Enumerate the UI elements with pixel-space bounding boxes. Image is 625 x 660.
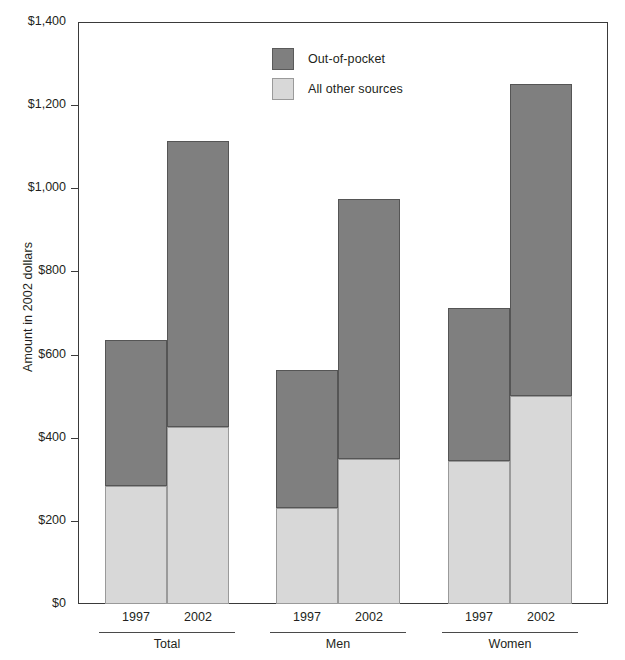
bar-total-2002	[167, 141, 229, 604]
legend-swatch-oop	[272, 48, 294, 70]
segment-all-other-sources	[510, 396, 572, 604]
x-axis-year-label: 1997	[276, 610, 338, 624]
y-axis-title: Amount in 2002 dollars	[21, 197, 35, 417]
bar-women-2002	[510, 84, 572, 604]
y-axis-tick-label: $600	[0, 347, 66, 361]
segment-out-of-pocket	[338, 199, 400, 459]
bar-women-1997	[448, 308, 510, 604]
segment-all-other-sources	[167, 427, 229, 604]
x-axis-year-label: 1997	[105, 610, 167, 624]
y-axis-tick-label: $200	[0, 513, 66, 527]
segment-all-other-sources	[448, 461, 510, 604]
y-axis-tick-label: $0	[0, 596, 66, 610]
x-axis-group-rule	[442, 632, 578, 633]
segment-all-other-sources	[105, 486, 167, 604]
bar-men-1997	[276, 370, 338, 604]
y-axis-tick-label: $1,400	[0, 14, 66, 28]
bar-total-1997	[105, 340, 167, 604]
legend-label: Out-of-pocket	[308, 52, 385, 66]
x-axis-group-label: Men	[270, 637, 406, 651]
legend-item: All other sources	[272, 74, 403, 104]
stacked-bar-chart: Amount in 2002 dollars $1,400$1,200$1,00…	[0, 0, 625, 660]
x-axis-group-label: Total	[99, 637, 235, 651]
segment-all-other-sources	[338, 459, 400, 605]
x-axis-year-label: 2002	[167, 610, 229, 624]
legend-swatch-other	[272, 78, 294, 100]
bars-layer	[78, 22, 608, 604]
y-axis-tick-label: $1,000	[0, 180, 66, 194]
x-axis-year-label: 2002	[510, 610, 572, 624]
bar-men-2002	[338, 199, 400, 604]
x-axis: 19972002Total19972002Men19972002Women	[78, 604, 608, 660]
y-axis-tick-label: $1,200	[0, 97, 66, 111]
segment-out-of-pocket	[167, 141, 229, 427]
segment-out-of-pocket	[448, 308, 510, 461]
chart-legend: Out-of-pocketAll other sources	[272, 44, 403, 104]
x-axis-year-label: 2002	[338, 610, 400, 624]
x-axis-year-label: 1997	[448, 610, 510, 624]
legend-label: All other sources	[308, 82, 403, 96]
x-axis-group-label: Women	[442, 637, 578, 651]
legend-item: Out-of-pocket	[272, 44, 403, 74]
y-axis-tick-label: $800	[0, 263, 66, 277]
segment-out-of-pocket	[105, 340, 167, 486]
x-axis-group-rule	[99, 632, 235, 633]
x-axis-group-rule	[270, 632, 406, 633]
y-axis-tick-label: $400	[0, 430, 66, 444]
segment-all-other-sources	[276, 508, 338, 604]
segment-out-of-pocket	[276, 370, 338, 507]
segment-out-of-pocket	[510, 84, 572, 396]
